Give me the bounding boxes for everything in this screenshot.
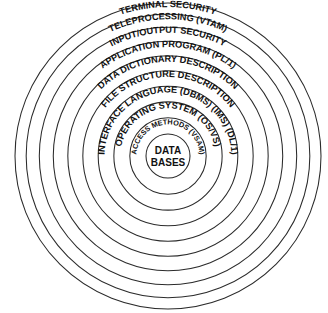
concentric-ring-diagram: TERMINAL SECURITYTELEPROCESSING (VTAM)IN… [0,0,328,313]
ring-labels-group: TERMINAL SECURITYTELEPROCESSING (VTAM)IN… [96,0,241,155]
diagram-canvas: TERMINAL SECURITYTELEPROCESSING (VTAM)IN… [0,0,328,313]
center-node: DATA BASES [151,145,186,168]
center-label-line2: BASES [151,157,186,168]
ring-circle-3 [39,27,296,284]
ring-circle-10 [146,134,190,178]
center-label-line1: DATA [155,145,181,156]
